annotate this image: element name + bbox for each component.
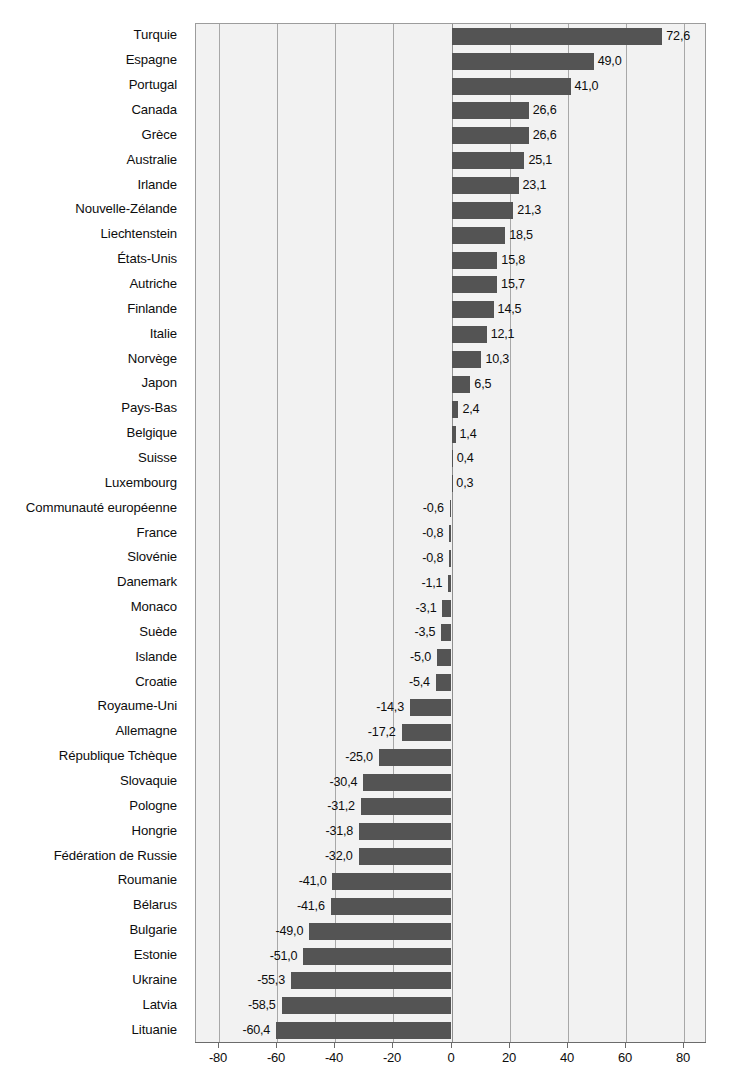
- x-tick: [451, 1042, 452, 1048]
- category-label-roumanie: Roumanie: [0, 873, 186, 887]
- bar-value-label: -14,3: [376, 699, 404, 716]
- bar: [452, 127, 529, 144]
- category-label-f-d-ration-de-russie: Fédération de Russie: [0, 849, 186, 863]
- bar-value-label: -41,6: [297, 898, 325, 915]
- bar: [291, 972, 452, 989]
- category-label-b-larus: Bélarus: [0, 898, 186, 912]
- bar-value-label: 26,6: [533, 102, 557, 119]
- bar-value-label: 25,1: [528, 152, 552, 169]
- category-label-australie: Australie: [0, 153, 186, 167]
- category-label-belgique: Belgique: [0, 426, 186, 440]
- category-label-norv-ge: Norvège: [0, 352, 186, 366]
- bar-value-label: -51,0: [270, 948, 298, 965]
- gridline-neg60: [277, 24, 278, 1042]
- bar: [441, 624, 451, 641]
- category-label-france: France: [0, 526, 186, 540]
- gridline-80: [684, 24, 685, 1042]
- category-label-nouvelle-z-lande: Nouvelle-Zélande: [0, 202, 186, 216]
- bar-value-label: -30,4: [330, 774, 358, 791]
- x-tick-label: 0: [421, 1050, 481, 1065]
- bar: [449, 550, 451, 567]
- bar-value-label: 26,6: [533, 127, 557, 144]
- bar: [450, 500, 452, 517]
- x-tick: [218, 1042, 219, 1048]
- bar: [452, 351, 482, 368]
- bar-value-label: -0,8: [422, 525, 443, 542]
- category-label-turquie: Turquie: [0, 28, 186, 42]
- bar-value-label: -32,0: [325, 848, 353, 865]
- bar: [452, 326, 487, 343]
- bar-value-label: -5,4: [409, 674, 430, 691]
- category-label-su-de: Suède: [0, 625, 186, 639]
- bar: [452, 78, 571, 95]
- x-tick: [509, 1042, 510, 1048]
- bar: [361, 798, 452, 815]
- bar-value-label: -31,2: [327, 798, 355, 815]
- bar: [276, 1022, 451, 1039]
- bar: [452, 276, 498, 293]
- category-label-ukraine: Ukraine: [0, 973, 186, 987]
- bar-value-label: -0,6: [423, 500, 444, 517]
- bar: [452, 475, 453, 492]
- bar-value-label: -60,4: [242, 1022, 270, 1039]
- category-label-latvia: Latvia: [0, 998, 186, 1012]
- plot-area: 72,649,041,026,626,625,123,121,318,515,8…: [195, 23, 706, 1042]
- x-tick-label: -40: [304, 1050, 364, 1065]
- gridline-40: [568, 24, 569, 1042]
- x-tick: [334, 1042, 335, 1048]
- x-tick-label: -20: [362, 1050, 422, 1065]
- bar: [410, 699, 452, 716]
- category-label-hongrie: Hongrie: [0, 824, 186, 838]
- bar: [452, 401, 459, 418]
- bar-value-label: 12,1: [491, 326, 515, 343]
- bar-value-label: 0,4: [457, 450, 474, 467]
- bar-value-label: -1,1: [421, 575, 442, 592]
- x-tick-label: 60: [595, 1050, 655, 1065]
- category-label-portugal: Portugal: [0, 78, 186, 92]
- bar-value-label: 41,0: [575, 78, 599, 95]
- bar: [452, 102, 529, 119]
- category-label-luxembourg: Luxembourg: [0, 476, 186, 490]
- horizontal-bar-chart: TurquieEspagnePortugalCanadaGrèceAustral…: [0, 0, 729, 1070]
- bar-value-label: -41,0: [299, 873, 327, 890]
- bar-value-label: -0,8: [422, 550, 443, 567]
- x-tick: [276, 1042, 277, 1048]
- category-label-allemagne: Allemagne: [0, 724, 186, 738]
- bar-value-label: 2,4: [462, 401, 479, 418]
- bar: [442, 600, 451, 617]
- bar: [379, 749, 452, 766]
- category-label-bulgarie: Bulgarie: [0, 923, 186, 937]
- bar: [452, 450, 453, 467]
- category-label-gr-ce: Grèce: [0, 128, 186, 142]
- bar-value-label: -58,5: [248, 997, 276, 1014]
- bar-value-label: 18,5: [509, 227, 533, 244]
- bar: [282, 997, 452, 1014]
- bar: [331, 898, 452, 915]
- category-label-pays-bas: Pays-Bas: [0, 401, 186, 415]
- bar-value-label: -17,2: [368, 724, 396, 741]
- bar: [452, 28, 663, 45]
- bar: [359, 848, 452, 865]
- category-label-royaume-uni: Royaume-Uni: [0, 699, 186, 713]
- category-label-autriche: Autriche: [0, 277, 186, 291]
- bar: [436, 674, 452, 691]
- bar-value-label: 23,1: [523, 177, 547, 194]
- bar-value-label: -5,0: [410, 649, 431, 666]
- category-label-slov-nie: Slovénie: [0, 550, 186, 564]
- bar: [332, 873, 451, 890]
- bar-value-label: 72,6: [666, 28, 690, 45]
- category-label-lituanie: Lituanie: [0, 1023, 186, 1037]
- x-tick-label: 40: [537, 1050, 597, 1065]
- bar-value-label: -3,5: [414, 624, 435, 641]
- bar-value-label: 15,7: [501, 276, 525, 293]
- x-tick-label: 20: [479, 1050, 539, 1065]
- bar: [437, 649, 452, 666]
- x-tick-label: -80: [188, 1050, 248, 1065]
- category-label-r-publique-tch-que: République Tchèque: [0, 749, 186, 763]
- category-label-monaco: Monaco: [0, 600, 186, 614]
- x-tick: [392, 1042, 393, 1048]
- bar: [402, 724, 452, 741]
- bar-value-label: 6,5: [474, 376, 491, 393]
- bar: [448, 575, 451, 592]
- bar: [452, 301, 494, 318]
